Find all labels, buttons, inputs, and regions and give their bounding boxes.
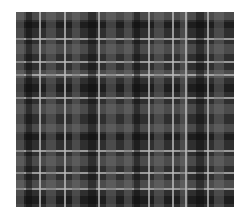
vertical-stripe (88, 12, 96, 207)
vertical-stripe (98, 12, 100, 207)
vertical-stripe (72, 12, 80, 207)
vertical-stripe (124, 12, 132, 207)
vertical-stripe (106, 12, 116, 207)
vertical-stripe (64, 12, 66, 207)
vertical-stripe (39, 12, 41, 207)
vertical-stripe (134, 12, 140, 207)
vertical-stripe (185, 12, 187, 207)
vertical-stripe (172, 12, 174, 207)
vertical-stripe (16, 12, 24, 207)
vertical-stripe (154, 12, 164, 207)
vertical-stripe (26, 12, 32, 207)
plaid-pattern-image (16, 12, 234, 207)
vertical-stripe (214, 12, 224, 207)
vertical-stripe (196, 12, 204, 207)
vertical-stripe (207, 12, 209, 207)
vertical-stripe (148, 12, 150, 207)
vertical-stripe (46, 12, 56, 207)
